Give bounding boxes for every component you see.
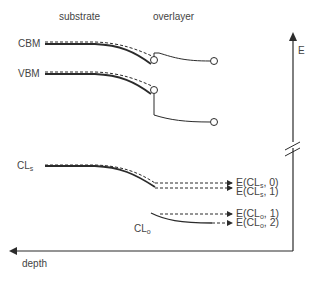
cbm-interface-marker (151, 57, 158, 64)
energy-label-cl-o-2: E(CLo, 2) (236, 217, 279, 231)
energy-arrow-icon (289, 32, 297, 41)
cl-o-level (151, 213, 232, 223)
band-diagram-canvas (0, 0, 315, 281)
energy-axis (285, 32, 300, 251)
vbm-substrate-band (45, 72, 152, 94)
depth-axis (9, 247, 293, 255)
vbm-label: VBM (18, 68, 40, 79)
vbm-surface-marker (211, 119, 218, 126)
energy-label-cl-s-1: E(CLs, 1) (236, 186, 279, 200)
depth-axis-label: depth (22, 258, 47, 269)
energy-axis-label: E (298, 45, 305, 56)
cbm-label: CBM (18, 38, 40, 49)
vbm-interface-marker (151, 87, 158, 94)
overlayer-label: overlayer (153, 11, 194, 22)
cbm-substrate-band (45, 42, 152, 64)
cl-o-label: CLo (134, 223, 151, 237)
cl-s-label: CLs (17, 160, 33, 174)
vbm-overlayer-band (151, 87, 218, 126)
cbm-overlayer-band (151, 53, 218, 65)
cl-s-level (45, 165, 232, 188)
cbm-surface-marker (211, 58, 218, 65)
substrate-label: substrate (59, 11, 100, 22)
depth-arrow-icon (9, 247, 17, 255)
